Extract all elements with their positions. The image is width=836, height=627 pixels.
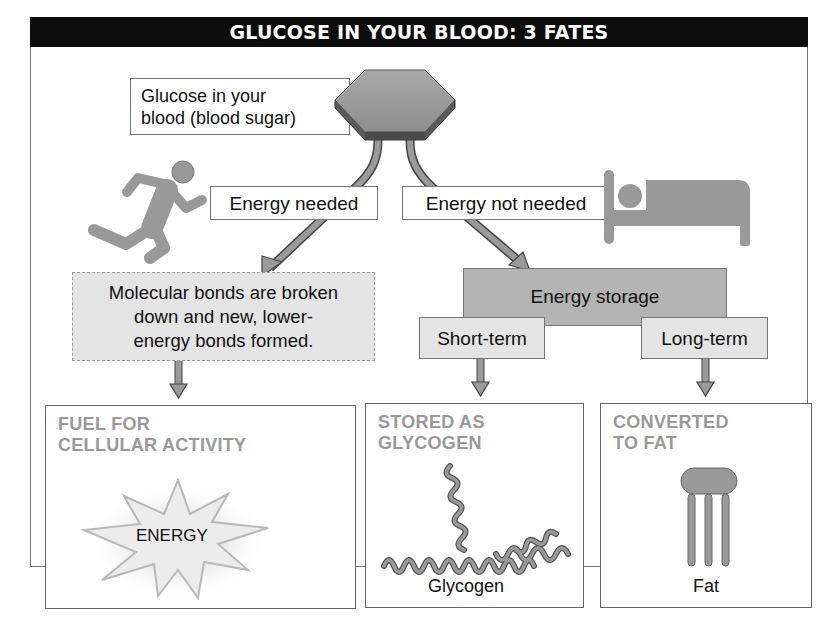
glucose-hexagon-icon bbox=[333, 68, 463, 148]
running-person-icon bbox=[82, 158, 222, 268]
bond-breaking-process-box: Molecular bonds are broken down and new,… bbox=[72, 272, 375, 361]
fate-fat-title: CONVERTED TO FAT bbox=[613, 412, 729, 454]
fat-title-line1: CONVERTED bbox=[613, 412, 729, 433]
glycogen-title-line1: STORED AS bbox=[378, 412, 485, 433]
bonds-line1: Molecular bonds are broken bbox=[109, 281, 338, 305]
energy-burst-label: ENERGY bbox=[136, 526, 208, 546]
energy-needed-label: Energy needed bbox=[210, 186, 378, 220]
fat-label: Fat bbox=[693, 576, 719, 597]
long-term-box: Long-term bbox=[641, 317, 768, 359]
fate-fuel-title: FUEL FOR CELLULAR ACTIVITY bbox=[58, 414, 246, 456]
glycogen-label: Glycogen bbox=[428, 576, 504, 597]
fate-fat-box: CONVERTED TO FAT Fat bbox=[600, 403, 812, 608]
fuel-title-line1: FUEL FOR bbox=[58, 414, 246, 435]
long-term-text: Long-term bbox=[661, 327, 748, 350]
energy-needed-text: Energy needed bbox=[230, 192, 359, 215]
fate-glycogen-box: STORED AS GLYCOGEN Glycogen bbox=[365, 403, 584, 608]
glycogen-chain-icon bbox=[376, 470, 576, 590]
fuel-title-line2: CELLULAR ACTIVITY bbox=[58, 435, 246, 456]
energy-not-needed-text: Energy not needed bbox=[426, 192, 587, 215]
short-term-text: Short-term bbox=[437, 327, 527, 350]
energy-not-needed-label: Energy not needed bbox=[402, 186, 610, 220]
fate-fuel-box: FUEL FOR CELLULAR ACTIVITY ENERGY bbox=[45, 405, 356, 609]
fate-glycogen-title: STORED AS GLYCOGEN bbox=[378, 412, 485, 454]
glycogen-title-line2: GLYCOGEN bbox=[378, 433, 485, 454]
short-term-box: Short-term bbox=[419, 317, 545, 359]
fat-title-line2: TO FAT bbox=[613, 433, 729, 454]
arrow-to-glycogen bbox=[472, 358, 489, 396]
arrow-to-fat bbox=[697, 358, 714, 396]
bed-sleeping-person-icon bbox=[604, 166, 754, 246]
bonds-line3: energy bonds formed. bbox=[109, 329, 338, 353]
triglyceride-fat-icon bbox=[679, 466, 749, 576]
arrow-to-fuel bbox=[170, 360, 187, 398]
energy-storage-text: Energy storage bbox=[531, 285, 660, 308]
bonds-line2: down and new, lower- bbox=[109, 305, 338, 329]
